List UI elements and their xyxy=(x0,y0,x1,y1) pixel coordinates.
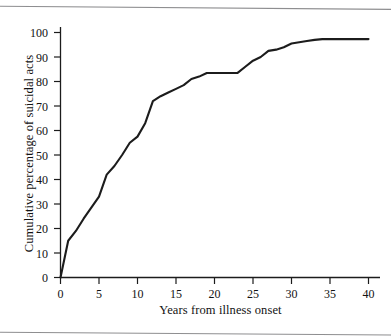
x-tick-label-40: 40 xyxy=(357,287,381,302)
y-axis-title: Cumulative percentage of suicidal acts xyxy=(22,39,37,269)
y-tick-label-0: 0 xyxy=(22,271,48,286)
data-series-line xyxy=(61,39,369,277)
x-axis-title: Years from illness onset xyxy=(0,303,391,318)
x-tick-label-25: 25 xyxy=(241,287,265,302)
x-tick-label-10: 10 xyxy=(126,287,150,302)
x-tick-label-0: 0 xyxy=(49,287,73,302)
x-tick-marks xyxy=(61,278,369,285)
x-tick-label-30: 30 xyxy=(280,287,304,302)
chart-figure: 0 10 20 30 40 50 60 70 80 90 100 0 5 10 … xyxy=(0,0,391,336)
y-tick-marks xyxy=(54,33,61,278)
x-tick-label-5: 5 xyxy=(87,287,111,302)
plot-area xyxy=(0,0,391,336)
x-tick-label-20: 20 xyxy=(203,287,227,302)
x-tick-label-15: 15 xyxy=(164,287,188,302)
x-tick-label-35: 35 xyxy=(318,287,342,302)
